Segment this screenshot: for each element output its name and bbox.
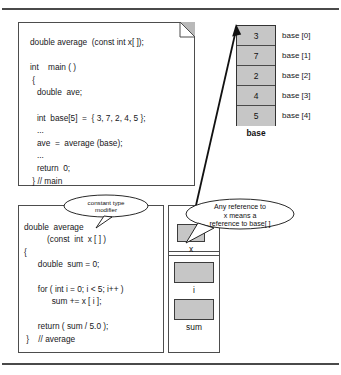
array-index-label: base [3] xyxy=(282,85,310,105)
page-fold-corner-icon xyxy=(180,22,195,37)
top-rule xyxy=(2,8,339,10)
array-cell: 7 xyxy=(237,46,275,66)
variable-box-sum xyxy=(174,299,214,320)
base-array: 3 7 2 4 5 xyxy=(236,25,276,126)
array-index-label: base [4] xyxy=(282,105,310,125)
array-index-label: base [2] xyxy=(282,65,310,85)
variable-label-sum: sum xyxy=(168,322,220,332)
array-cell: 4 xyxy=(237,86,275,106)
bottom-rule xyxy=(2,363,339,365)
variable-box-x xyxy=(177,224,205,242)
array-caption: base xyxy=(236,128,276,138)
average-code-text: double average (const int x [ ] ) { doub… xyxy=(24,221,170,345)
array-cell: 3 xyxy=(237,26,275,46)
variables-panel-divider-2 xyxy=(168,255,220,256)
array-cell: 2 xyxy=(237,66,275,86)
array-index-label: base [1] xyxy=(282,45,310,65)
variable-label-x: x xyxy=(168,244,214,254)
variable-label-i: i xyxy=(168,285,220,295)
main-code-text: double average (const int x[ ]); int mai… xyxy=(30,36,195,187)
array-index-label: base [0] xyxy=(282,25,310,45)
array-cell: 5 xyxy=(237,106,275,126)
variable-box-i xyxy=(174,262,214,283)
figure-canvas: double average (const int x[ ]); int mai… xyxy=(0,0,341,375)
